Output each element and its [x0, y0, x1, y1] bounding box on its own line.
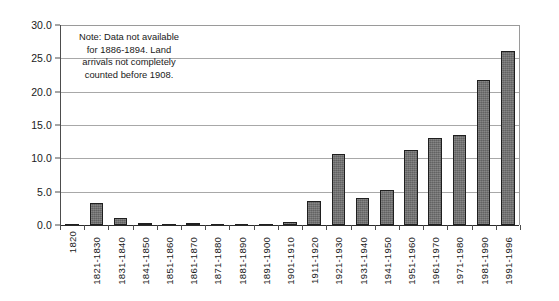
- note-line: counted before 1908.: [64, 69, 194, 82]
- note-line: for 1886-1894. Land: [64, 44, 194, 57]
- y-tick-label: 30.0: [6, 19, 52, 31]
- x-tick-label: 1861-1870: [188, 237, 199, 285]
- x-tick-label: 1881-1890: [237, 237, 248, 285]
- bar: [114, 218, 128, 225]
- x-tick-mark: [472, 225, 473, 230]
- data-availability-note: Note: Data not availablefor 1886-1894. L…: [64, 31, 194, 81]
- x-tick-mark: [108, 225, 109, 230]
- x-tick-label: 1841-1850: [140, 237, 151, 285]
- x-tick-mark: [60, 225, 61, 230]
- y-tick-label: 20.0: [6, 86, 52, 98]
- y-axis: 30.0 25.0 20.0 15.0 10.0 5.0 0.0: [0, 25, 52, 225]
- y-tick-label: 15.0: [6, 119, 52, 131]
- y-tick-label: 5.0: [6, 186, 52, 198]
- x-tick-mark: [181, 225, 182, 230]
- bar-chart: 30.0 25.0 20.0 15.0 10.0 5.0 0.0 1820182…: [0, 0, 559, 301]
- bar: [404, 150, 418, 225]
- x-tick-mark: [84, 225, 85, 230]
- x-tick-mark: [423, 225, 424, 230]
- bar: [307, 201, 321, 225]
- x-tick-label: 1991-1996: [503, 237, 514, 285]
- x-tick-label: 1871-1880: [212, 237, 223, 285]
- bar: [453, 135, 467, 225]
- bar: [428, 138, 442, 225]
- bar: [332, 154, 346, 225]
- bar: [90, 203, 104, 225]
- x-tick-label: 1911-1920: [309, 237, 320, 284]
- y-tick-label: 10.0: [6, 152, 52, 164]
- x-tick-mark: [326, 225, 327, 230]
- x-tick-label: 1891-1900: [261, 237, 272, 285]
- x-tick-mark: [375, 225, 376, 230]
- x-tick-label: 1921-1930: [333, 237, 344, 285]
- x-tick-label: 1941-1950: [382, 237, 393, 285]
- x-tick-mark: [229, 225, 230, 230]
- x-tick-label: 1851-1860: [164, 237, 175, 285]
- x-tick-label: 1831-1840: [116, 237, 127, 285]
- x-tick-label: 1961-1970: [430, 237, 441, 285]
- bar: [477, 80, 491, 225]
- x-tick-label: 1820: [67, 231, 78, 253]
- x-tick-label: 1821-1830: [91, 237, 102, 285]
- x-axis: 18201821-18301831-18401841-18501851-1860…: [60, 231, 520, 301]
- bar: [380, 190, 394, 225]
- x-tick-label: 1971-1980: [454, 237, 465, 285]
- bar: [356, 198, 370, 225]
- bar: [501, 51, 515, 225]
- x-tick-label: 1901-1910: [285, 237, 296, 285]
- x-tick-mark: [157, 225, 158, 230]
- x-tick-mark: [205, 225, 206, 230]
- x-tick-label: 1931-1940: [358, 237, 369, 285]
- note-line: Note: Data not available: [64, 31, 194, 44]
- note-line: arrivals not completely: [64, 56, 194, 69]
- y-tick-label: 25.0: [6, 52, 52, 64]
- x-tick-label: 1981-1990: [479, 237, 490, 285]
- x-tick-mark: [447, 225, 448, 230]
- x-tick-mark: [399, 225, 400, 230]
- x-tick-mark: [496, 225, 497, 230]
- x-tick-mark: [133, 225, 134, 230]
- x-tick-mark: [351, 225, 352, 230]
- x-tick-mark: [254, 225, 255, 230]
- x-tick-label: 1951-1960: [406, 237, 417, 285]
- x-tick-mark: [520, 225, 521, 230]
- x-tick-mark: [278, 225, 279, 230]
- y-tick-label: 0.0: [6, 219, 52, 231]
- x-tick-mark: [302, 225, 303, 230]
